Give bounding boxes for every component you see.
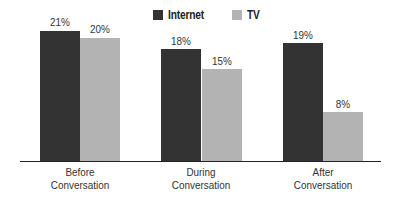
category-label-before: Before Conversation — [35, 166, 125, 192]
bar-during-tv — [202, 69, 242, 161]
bar-before-internet — [40, 31, 80, 161]
x-axis-line — [20, 161, 381, 162]
legend-item-tv: TV — [232, 8, 262, 22]
value-label-after-tv: 8% — [325, 98, 361, 110]
bar-before-tv — [80, 38, 120, 161]
category-label-during-line1: During — [156, 166, 246, 179]
category-label-during-line2: Conversation — [156, 179, 246, 192]
category-label-after-line1: After — [278, 166, 368, 179]
legend-swatch-internet — [153, 10, 163, 20]
value-label-during-tv: 15% — [204, 55, 240, 67]
legend-label-internet: Internet — [168, 8, 204, 22]
category-label-after: After Conversation — [278, 166, 368, 192]
category-label-before-line1: Before — [35, 166, 125, 179]
category-label-before-line2: Conversation — [35, 179, 125, 192]
legend-swatch-tv — [232, 10, 242, 20]
category-label-after-line2: Conversation — [278, 179, 368, 192]
bar-after-internet — [283, 43, 323, 161]
bar-chart: Internet TV 21% 20% 18% 15% 19% 8% Befor… — [0, 0, 399, 202]
bar-after-tv — [323, 112, 363, 161]
legend: Internet TV — [153, 8, 284, 22]
legend-item-internet: Internet — [153, 8, 210, 22]
value-label-after-internet: 19% — [285, 29, 321, 41]
value-label-during-internet: 18% — [163, 35, 199, 47]
category-label-during: During Conversation — [156, 166, 246, 192]
legend-label-tv: TV — [247, 8, 260, 22]
bar-during-internet — [161, 49, 201, 161]
value-label-before-tv: 20% — [82, 23, 118, 35]
value-label-before-internet: 21% — [42, 16, 78, 28]
